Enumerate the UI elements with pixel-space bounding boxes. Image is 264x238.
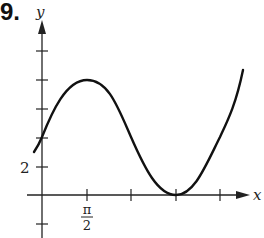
x-axis-label: x: [253, 186, 262, 204]
x-tick-label-pi-over-2: π 2: [81, 202, 93, 233]
y-tick-label-2: 2: [20, 159, 30, 177]
sine-curve: [34, 70, 243, 195]
sine-graph: y x 2 π 2: [0, 0, 264, 238]
x-axis-arrow-icon: [236, 191, 250, 199]
svg-text:π: π: [83, 202, 92, 217]
y-axis-arrow-icon: [38, 20, 46, 34]
svg-text:2: 2: [83, 218, 91, 233]
y-axis-label: y: [35, 3, 45, 21]
